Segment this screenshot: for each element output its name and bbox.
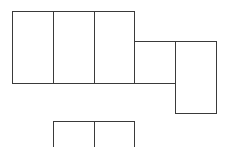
- top-row-cell-3: [94, 11, 135, 84]
- top-row-cell-1: [12, 11, 54, 84]
- middle-square-cell: [134, 41, 176, 84]
- bottom-cell-1: [53, 121, 95, 147]
- diagram-canvas: [0, 0, 230, 147]
- tall-right-cell: [175, 41, 217, 114]
- top-row-cell-2: [53, 11, 95, 84]
- bottom-cell-2: [94, 121, 135, 147]
